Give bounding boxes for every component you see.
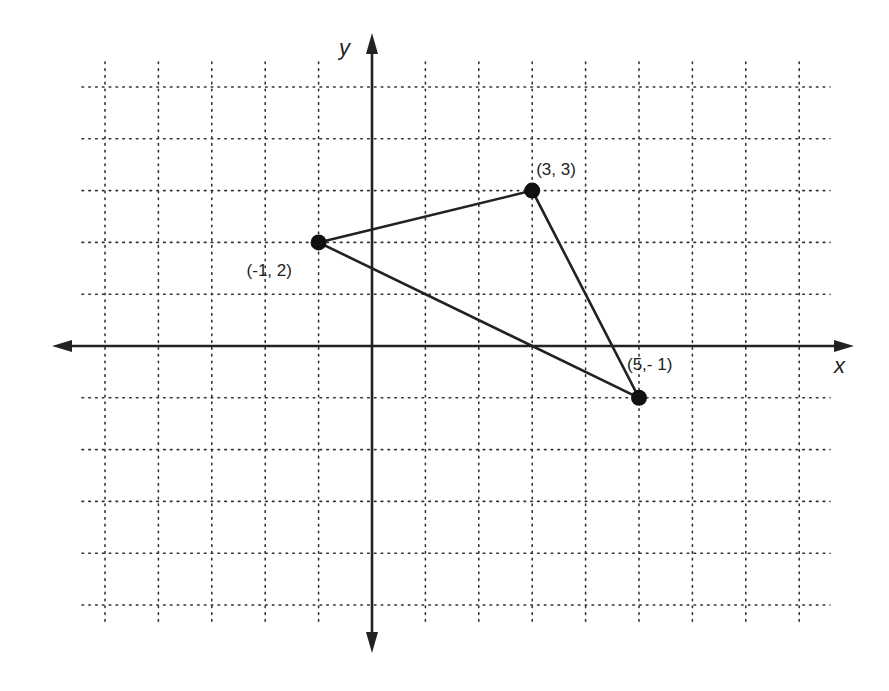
point-labels: (-1, 2)(3, 3)(5,- 1) <box>247 160 673 374</box>
point-label: (5,- 1) <box>627 355 672 374</box>
data-point <box>311 234 327 250</box>
point-label: (-1, 2) <box>247 261 292 280</box>
x-axis-right-arrow-icon <box>834 340 854 352</box>
y-axis-down-arrow-icon <box>366 632 378 653</box>
y-axis-up-arrow-icon <box>366 33 378 54</box>
y-axis-label: y <box>337 35 352 60</box>
grid-lines <box>82 62 830 626</box>
x-axis-label: x <box>833 353 846 378</box>
axes <box>52 33 854 653</box>
coordinate-plane: x y (-1, 2)(3, 3)(5,- 1) <box>0 0 889 691</box>
point-label: (3, 3) <box>536 160 576 179</box>
x-axis-left-arrow-icon <box>52 340 72 352</box>
data-point <box>524 183 540 199</box>
data-point <box>631 390 647 406</box>
